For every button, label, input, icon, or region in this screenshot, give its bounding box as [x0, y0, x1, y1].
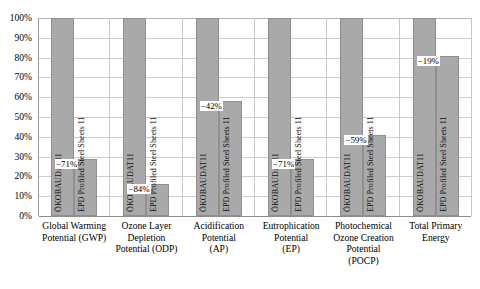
- bar-value-label: −19%: [417, 56, 440, 66]
- y-axis-tick: 20%: [0, 171, 32, 181]
- y-axis-tick: 0%: [0, 211, 32, 221]
- y-axis-tick: 30%: [0, 152, 32, 162]
- y-axis: 0%10%20%30%40%50%60%70%80%90%100%: [0, 0, 36, 230]
- x-axis-category-line: (POCP): [328, 255, 398, 267]
- bar-okobaudat: ÖKOBAUDAT11: [413, 18, 436, 216]
- bar-series-label: EPD Profiled Steel Sheets 11: [294, 116, 303, 212]
- bar-series-label: EPD Profiled Steel Sheets 11: [77, 116, 86, 212]
- bar-value-label: −59%: [344, 135, 367, 145]
- bar-value-label: −42%: [200, 101, 223, 111]
- x-axis-category-line: Eutrophication: [256, 220, 326, 232]
- x-axis-category-label: AcidificationPotential(AP): [183, 220, 255, 266]
- bar-value-label: −84%: [127, 184, 150, 194]
- bar-okobaudat: ÖKOBAUDAT11: [340, 18, 363, 216]
- y-axis-tick: 70%: [0, 72, 32, 82]
- y-axis-tick: 100%: [0, 13, 32, 23]
- x-axis-category-line: Depletion: [111, 232, 181, 244]
- bar-groups: ÖKOBAUDAT11EPD Profiled Steel Sheets 11−…: [38, 18, 472, 216]
- x-axis-category-line: Acidification: [184, 220, 254, 232]
- x-axis-category-line: Energy: [401, 232, 471, 244]
- gridline: [39, 216, 471, 217]
- bar-epd: EPD Profiled Steel Sheets 11−42%: [219, 101, 242, 216]
- bar-series-label: ÖKOBAUDAT11: [126, 153, 135, 212]
- bar-value-label: −71%: [272, 159, 295, 169]
- bar-group: ÖKOBAUDAT11EPD Profiled Steel Sheets 11−…: [38, 18, 110, 216]
- y-axis-tick: 40%: [0, 132, 32, 142]
- bar-epd: EPD Profiled Steel Sheets 11−84%: [146, 184, 169, 216]
- x-axis-category-line: Ozone Creation: [328, 232, 398, 244]
- x-axis-category-line: Potential (GWP): [39, 232, 109, 244]
- x-axis-category-label: EutrophicationPotential(EP): [255, 220, 327, 266]
- x-axis-category-label: Total PrimaryEnergy: [400, 220, 472, 266]
- y-axis-tick: 80%: [0, 53, 32, 63]
- bar-group: ÖKOBAUDAT11EPD Profiled Steel Sheets 11−…: [400, 18, 472, 216]
- x-axis-category-line: Ozone Layer: [111, 220, 181, 232]
- bar-okobaudat: ÖKOBAUDAT11: [51, 18, 74, 216]
- bar-okobaudat: ÖKOBAUDAT11: [268, 18, 291, 216]
- x-axis-category-line: Potential (ODP): [111, 243, 181, 255]
- bar-epd: EPD Profiled Steel Sheets 11−19%: [436, 56, 459, 216]
- x-axis-category-line: Potential: [328, 243, 398, 255]
- bar-group: ÖKOBAUDAT11EPD Profiled Steel Sheets 11−…: [183, 18, 255, 216]
- x-axis-category-line: Potential: [184, 232, 254, 244]
- bar-group: ÖKOBAUDAT11EPD Profiled Steel Sheets 11−…: [255, 18, 327, 216]
- x-axis-category-line: (EP): [256, 243, 326, 255]
- y-axis-tick: 10%: [0, 191, 32, 201]
- bar-okobaudat: ÖKOBAUDAT11: [196, 18, 219, 216]
- bar-epd: EPD Profiled Steel Sheets 11−71%: [291, 159, 314, 216]
- bar-series-label: EPD Profiled Steel Sheets 11: [366, 116, 375, 212]
- x-axis-category-label: PhotochemicalOzone CreationPotential(POC…: [327, 220, 399, 266]
- bar-series-label: ÖKOBAUDAT11: [199, 153, 208, 212]
- x-axis-category-line: Total Primary: [401, 220, 471, 232]
- bar-series-label: EPD Profiled Steel Sheets 11: [149, 116, 158, 212]
- x-axis-category-line: Potential: [256, 232, 326, 244]
- x-axis-category-line: Global Warming: [39, 220, 109, 232]
- bar-series-label: ÖKOBAUDAT11: [343, 153, 352, 212]
- x-axis-category-line: Photochemical: [328, 220, 398, 232]
- y-axis-tick: 50%: [0, 112, 32, 122]
- y-axis-tick: 60%: [0, 92, 32, 102]
- bar-series-label: EPD Profiled Steel Sheets 11: [439, 116, 448, 212]
- x-axis-category-label: Global WarmingPotential (GWP): [38, 220, 110, 266]
- bar-group: ÖKOBAUDAT11EPD Profiled Steel Sheets 11−…: [110, 18, 182, 216]
- x-axis-category-label: Ozone LayerDepletionPotential (ODP): [110, 220, 182, 266]
- bar-group: ÖKOBAUDAT11EPD Profiled Steel Sheets 11−…: [327, 18, 399, 216]
- y-axis-tick: 90%: [0, 33, 32, 43]
- bar-series-label: ÖKOBAUDAT11: [416, 153, 425, 212]
- bar-chart: 0%10%20%30%40%50%60%70%80%90%100% ÖKOBAU…: [0, 0, 480, 289]
- bar-epd: EPD Profiled Steel Sheets 11−59%: [363, 135, 386, 216]
- bar-epd: EPD Profiled Steel Sheets 11−71%: [74, 159, 97, 216]
- bar-value-label: −71%: [55, 159, 78, 169]
- x-axis-category-line: (AP): [184, 243, 254, 255]
- bar-series-label: EPD Profiled Steel Sheets 11: [222, 116, 231, 212]
- x-axis-labels: Global WarmingPotential (GWP)Ozone Layer…: [38, 220, 472, 266]
